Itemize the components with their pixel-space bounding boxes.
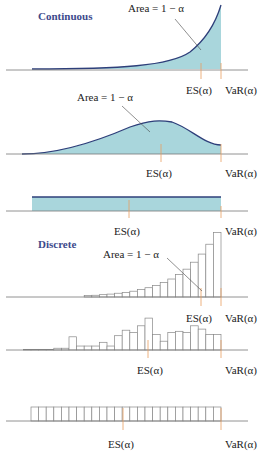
bar-series: [31, 407, 221, 421]
var-label: VaR(α): [225, 84, 257, 97]
bar: [153, 407, 161, 421]
panel-discrete-uniform: ES(α) VaR(α): [6, 407, 257, 451]
area-label: Area = 1 − α: [128, 2, 184, 14]
bar: [61, 407, 69, 421]
panel-continuous-bell: Area = 1 − α ES(α) VaR(α): [6, 91, 257, 180]
bar: [145, 288, 153, 297]
bar: [153, 335, 161, 350]
bar: [39, 407, 47, 421]
bar: [206, 407, 214, 421]
bar: [183, 269, 191, 297]
bar: [198, 329, 206, 350]
var-label: VaR(α): [225, 167, 257, 180]
bar: [183, 332, 191, 350]
bar: [137, 289, 145, 297]
bar: [160, 283, 168, 298]
bar: [198, 407, 206, 421]
bar: [213, 335, 221, 350]
var-label: VaR(α): [225, 225, 257, 238]
panel-continuous-uniform: ES(α) VaR(α): [6, 197, 257, 238]
panel-discrete-irregular: ES(α) VaR(α): [6, 318, 257, 377]
bar: [69, 337, 77, 350]
bar-series: [84, 233, 221, 297]
bar: [145, 407, 153, 421]
area-pointer: [175, 19, 201, 50]
es-label: ES(α): [137, 364, 163, 377]
bar: [175, 407, 183, 421]
bar: [160, 407, 168, 421]
bar: [77, 407, 85, 421]
bar: [115, 293, 123, 297]
es-label: ES(α): [186, 312, 212, 325]
heading-discrete: Discrete: [38, 238, 76, 250]
bar: [107, 346, 115, 350]
bar: [122, 330, 130, 350]
bar: [99, 342, 107, 350]
bar: [213, 407, 221, 421]
bar: [183, 407, 191, 421]
bar: [206, 244, 214, 297]
bar: [168, 279, 176, 297]
bar: [168, 407, 176, 421]
bar: [69, 407, 77, 421]
bar: [206, 335, 214, 350]
bar: [137, 407, 145, 421]
bar: [84, 407, 92, 421]
panel-continuous-exponential: Continuous Area = 1 − α ES(α) VaR(α): [6, 2, 257, 97]
area-label: Area = 1 − α: [103, 248, 159, 260]
var-es-diagram: Continuous Area = 1 − α ES(α) VaR(α) Are…: [0, 0, 265, 458]
bar: [107, 407, 115, 421]
bar: [198, 254, 206, 297]
var-label: VaR(α): [225, 438, 257, 451]
es-label: ES(α): [146, 167, 172, 180]
bar: [130, 291, 138, 297]
bar: [84, 346, 92, 350]
bar: [54, 407, 62, 421]
bar: [115, 407, 123, 421]
bar: [130, 332, 138, 350]
es-label: ES(α): [186, 84, 212, 97]
bar: [99, 407, 107, 421]
bar: [137, 326, 145, 350]
bar: [122, 292, 130, 297]
var-label: VaR(α): [225, 312, 257, 325]
es-label: ES(α): [114, 225, 140, 238]
bar: [77, 346, 85, 350]
bar: [191, 326, 199, 350]
heading-continuous: Continuous: [38, 10, 93, 22]
panel-discrete-increasing: Discrete Area = 1 − α ES(α) VaR(α): [6, 233, 257, 325]
area-label: Area = 1 − α: [77, 91, 133, 103]
bar: [145, 318, 153, 350]
bar: [168, 332, 176, 350]
bar: [31, 407, 39, 421]
bar: [175, 274, 183, 297]
bar: [92, 407, 100, 421]
bar: [46, 407, 54, 421]
bar: [191, 262, 199, 297]
bar: [175, 331, 183, 350]
bar: [107, 294, 115, 297]
area-fill: [32, 197, 221, 211]
bar: [160, 341, 168, 350]
area-fill: [22, 121, 221, 154]
bar: [130, 407, 138, 421]
es-label: ES(α): [108, 438, 134, 451]
bar: [191, 407, 199, 421]
var-label: VaR(α): [225, 364, 257, 377]
bar: [213, 233, 221, 297]
bar: [92, 346, 100, 350]
bar: [115, 336, 123, 350]
bar: [153, 285, 161, 297]
